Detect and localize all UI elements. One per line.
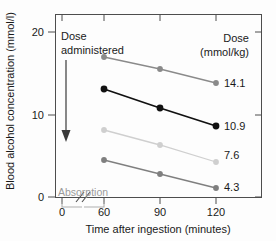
x-tick-label-0: 0 (59, 206, 65, 218)
series-14.1 (101, 54, 219, 86)
legend-title-line1: Dose (223, 32, 249, 44)
legend-title-line2: (mmol/kg) (200, 46, 249, 58)
data-point (213, 123, 220, 130)
data-point (101, 54, 107, 60)
data-point (157, 171, 163, 177)
data-point (213, 80, 219, 86)
data-point (101, 127, 107, 133)
y-tick-label-10: 10 (32, 109, 44, 121)
y-tick-label-20: 20 (32, 26, 44, 38)
y-tick-label-0: 0 (38, 191, 44, 203)
data-point (213, 185, 219, 191)
series-label-7.6: 7.6 (224, 149, 239, 161)
dose-arrow-head (62, 130, 71, 142)
x-axis-title: Time after ingestion (minutes) (85, 223, 230, 235)
data-point (157, 105, 164, 112)
series-10.9 (101, 86, 220, 130)
dose-administered-line1: Dose (61, 30, 87, 42)
series-7.6 (101, 127, 219, 165)
x-tick-label-60: 60 (98, 206, 110, 218)
data-point (213, 159, 219, 165)
data-point (101, 86, 108, 93)
series-4.3 (101, 157, 219, 191)
data-point (157, 66, 163, 72)
series-label-4.3: 4.3 (224, 181, 239, 193)
chart-figure: Blood alcohol concentration (mmol/l) 20 … (0, 0, 276, 241)
data-point (101, 157, 107, 163)
series-label-14.1: 14.1 (224, 77, 245, 89)
y-axis-title: Blood alcohol concentration (mmol/l) (4, 12, 16, 190)
absorption-label: Absorption (58, 186, 108, 198)
data-point (157, 142, 163, 148)
x-tick-label-120: 120 (207, 206, 225, 218)
series-label-10.9: 10.9 (224, 120, 245, 132)
chart-svg: Blood alcohol concentration (mmol/l) 20 … (0, 0, 276, 241)
x-tick-label-90: 90 (154, 206, 166, 218)
dose-administered-line2: administered (61, 44, 124, 56)
